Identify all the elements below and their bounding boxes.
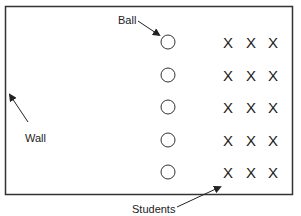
student-marker: X — [246, 132, 256, 149]
students-grid: X X X X X X X X X X X X X X X — [223, 34, 278, 181]
student-marker: X — [223, 99, 233, 116]
student-marker: X — [268, 34, 278, 51]
student-marker: X — [223, 34, 233, 51]
student-marker: X — [246, 164, 256, 181]
ball — [161, 68, 175, 82]
ball-arrow-icon — [138, 21, 159, 35]
student-marker: X — [223, 164, 233, 181]
ball — [161, 100, 175, 114]
student-marker: X — [246, 99, 256, 116]
student-marker: X — [268, 132, 278, 149]
wall-label: Wall — [25, 132, 46, 144]
student-marker: X — [246, 67, 256, 84]
students-arrow-icon — [177, 187, 220, 207]
student-marker: X — [268, 67, 278, 84]
ball — [161, 165, 175, 179]
student-marker: X — [268, 164, 278, 181]
students-label: Students — [132, 203, 176, 215]
wall-arrow-icon — [10, 95, 28, 122]
student-marker: X — [223, 67, 233, 84]
ball-label: Ball — [118, 14, 136, 26]
ball — [161, 133, 175, 147]
student-marker: X — [246, 34, 256, 51]
student-marker: X — [223, 132, 233, 149]
ball — [161, 35, 175, 49]
ball-column — [161, 35, 175, 179]
gym-diagram: X X X X X X X X X X X X X X X Ball Wall … — [0, 0, 301, 216]
student-marker: X — [268, 99, 278, 116]
